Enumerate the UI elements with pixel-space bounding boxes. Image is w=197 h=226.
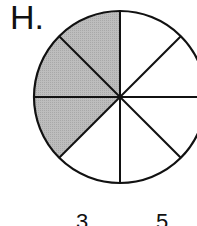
denominator-number: 5	[156, 211, 168, 226]
fraction-circle	[0, 0, 197, 226]
numerator-number: 3	[76, 211, 88, 226]
